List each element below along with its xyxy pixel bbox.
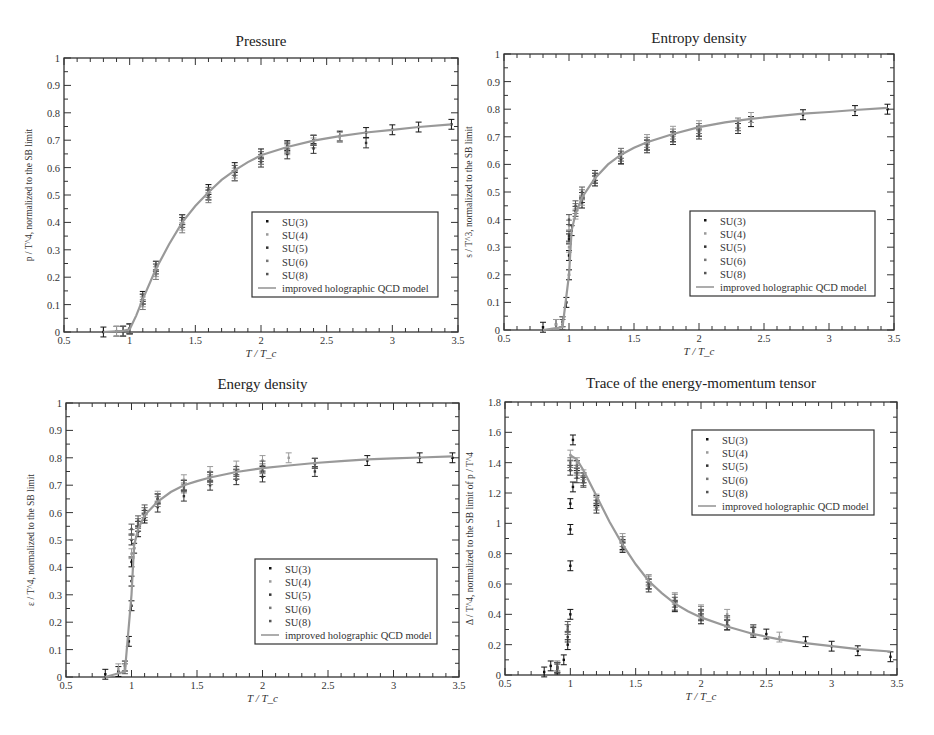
y-tick-label: 0.8 [488,549,501,560]
y-tick-label: 0.1 [487,297,500,308]
y-tick-label: 1.4 [488,458,502,469]
y-tick-label: 0 [55,327,60,338]
x-tick-label: 1 [127,335,132,346]
legend-item: improved holographic QCD model [722,501,869,512]
legend-item: improved holographic QCD model [720,282,867,293]
legend-marker-icon [704,272,707,275]
chart-title: Pressure [236,33,287,49]
x-axis-label: T / T_c [686,690,717,702]
legend-item: improved holographic QCD model [282,283,429,294]
y-tick-label: 0.9 [487,77,500,88]
legend-item: SU(4) [720,229,746,241]
y-tick-label: 0.6 [487,159,500,170]
legend-item: SU(6) [720,256,746,268]
legend-item: SU(4) [282,230,308,242]
legend-marker-icon [266,220,269,223]
x-axis-label: T / T_c [246,347,277,359]
y-tick-label: 1 [55,53,60,64]
x-tick-label: 3.5 [890,678,903,689]
y-axis-label: p / T^4, normalized to the SB limit [24,128,34,261]
x-tick-label: 1.5 [629,678,642,689]
legend-item: SU(3) [285,564,311,576]
y-tick-label: 0.4 [487,215,501,226]
legend: SU(3)SU(4)SU(5)SU(6)SU(8)improved hologr… [255,559,437,644]
y-tick-label: 0.7 [47,135,60,146]
legend-marker-icon [706,478,709,481]
x-tick-label: 1 [568,678,573,689]
y-tick-label: 0.4 [49,562,63,573]
x-tick-label: 1.5 [627,333,640,344]
x-tick-label: 2 [258,335,263,346]
y-tick-label: 0.5 [49,535,62,546]
legend-marker-icon [266,233,269,236]
y-tick-label: 0.5 [487,187,500,198]
y-tick-label: 0.2 [487,270,500,281]
y-tick-label: 0.8 [47,108,60,119]
legend-item: SU(8) [722,488,748,500]
chart-panel-trace: Trace of the energy-momentum tensor0.511… [465,375,904,702]
y-tick-label: 0.1 [47,300,60,311]
legend-item: improved holographic QCD model [285,630,432,641]
legend-marker-icon [269,567,272,570]
legend-marker-icon [706,491,709,494]
y-tick-label: 1 [495,49,500,60]
legend-marker-icon [266,260,269,263]
y-tick-label: 0.4 [488,609,502,620]
y-tick-label: 0.2 [488,640,501,651]
y-tick-label: 1.8 [488,397,501,408]
x-tick-label: 2.5 [321,680,334,691]
y-axis-label: s / T^3, normalized to the SB limit [464,126,474,258]
legend-item: SU(5) [282,243,308,255]
y-tick-label: 0.3 [49,590,62,601]
x-tick-label: 2 [696,333,701,344]
y-tick-label: 0.5 [47,190,60,201]
legend-item: SU(6) [722,475,748,487]
y-tick-label: 1 [496,518,501,529]
y-tick-label: 0.2 [49,617,62,628]
x-tick-label: 2.5 [320,335,333,346]
y-tick-label: 0.6 [49,508,62,519]
legend-item: SU(5) [720,242,746,254]
legend-marker-icon [269,607,272,610]
legend-marker-icon [266,246,269,249]
x-tick-label: 2.5 [757,333,770,344]
legend-item: SU(3) [720,216,746,228]
y-tick-label: 0.2 [47,272,60,283]
legend-marker-icon [266,273,269,276]
legend-marker-icon [706,438,709,441]
y-tick-label: 0.6 [47,163,60,174]
chart-panel-energy: Energy density0.511.522.533.500.10.20.30… [26,376,466,704]
x-tick-label: 3 [391,680,396,691]
legend: SU(3)SU(4)SU(5)SU(6)SU(8)improved hologr… [690,211,875,296]
legend-marker-icon [269,593,272,596]
legend-marker-icon [269,620,272,623]
y-tick-label: 0.6 [488,579,501,590]
legend-item: SU(5) [285,590,311,602]
legend-item: SU(8) [282,270,308,282]
chart-title: Entropy density [651,30,747,46]
y-tick-label: 0.4 [47,217,61,228]
x-tick-label: 1 [129,680,134,691]
x-tick-label: 3.5 [451,335,464,346]
x-tick-label: 2 [698,678,703,689]
legend-item: SU(3) [282,217,308,229]
legend-item: SU(6) [282,257,308,269]
legend-marker-icon [704,245,707,248]
legend: SU(3)SU(4)SU(5)SU(6)SU(8)improved hologr… [252,212,438,297]
chart-title: Energy density [217,376,308,392]
y-tick-label: 0.9 [49,425,62,436]
legend-item: SU(4) [285,577,311,589]
y-tick-label: 1.2 [488,488,501,499]
x-tick-label: 1 [566,333,571,344]
legend-marker-icon [269,580,272,583]
legend-marker-icon [706,451,709,454]
legend-marker-icon [706,464,709,467]
y-tick-label: 1 [57,398,62,409]
chart-panel-pressure: Pressure0.511.522.533.500.10.20.30.40.50… [24,33,465,359]
legend-item: SU(8) [720,269,746,281]
y-tick-label: 0 [57,672,62,683]
y-tick-label: 0.1 [49,645,62,656]
chart-panel-entropy: Entropy density0.511.522.533.500.10.20.3… [464,30,901,357]
legend-item: SU(3) [722,435,748,447]
y-tick-label: 0 [496,670,501,681]
